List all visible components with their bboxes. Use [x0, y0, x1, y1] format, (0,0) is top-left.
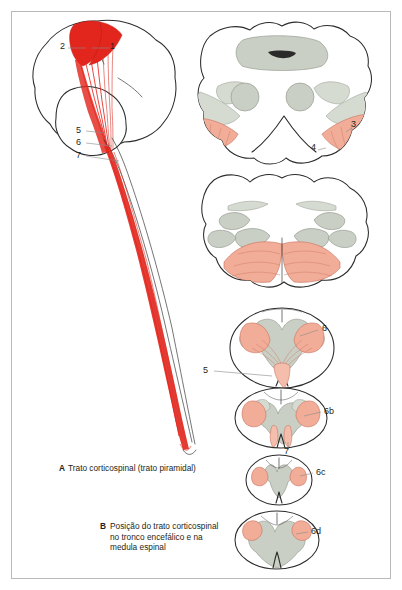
caption-b-text: Posição do trato corticospinal no tronco… — [110, 521, 218, 553]
corticospinal-tract-ribbon — [104, 146, 189, 450]
label-number-6-lumbar: 6d — [311, 527, 321, 536]
caption-b-line-2: no tronco encefálico e na — [110, 532, 218, 543]
figure-page: .ol { fill:none; stroke:#2b2b2b; stroke-… — [0, 0, 402, 590]
spinal-cord-tip — [183, 450, 196, 455]
label-number-7-brain: 7 — [76, 151, 81, 160]
label-number-2: 2 — [60, 42, 65, 51]
label-number-3-midbrain: 3 — [351, 120, 356, 129]
lateral-corticospinal-lumbar-left — [243, 521, 262, 541]
caption-a-text: Trato corticospinal (trato piramidal) — [68, 463, 196, 474]
red-nucleus-right — [286, 83, 314, 111]
caption-a-letter: A — [59, 463, 65, 473]
section-cervical-spinal-cord — [235, 388, 327, 450]
section-medulla-oblongata — [214, 308, 334, 388]
label-number-7-cervical: 7 — [284, 447, 289, 456]
label-number-6-thoracic: 6c — [316, 468, 326, 477]
lateral-corticospinal-thoracic-left — [252, 467, 268, 486]
label-number-4-midbrain: 4 — [311, 143, 316, 152]
lateral-corticospinal-lumbar-right — [292, 521, 311, 541]
anatomical-illustration: .ol { fill:none; stroke:#2b2b2b; stroke-… — [0, 0, 402, 590]
label-number-1: 1 — [110, 42, 115, 51]
anterior-corticospinal-cervical-left — [270, 425, 278, 447]
caption-b-letter: B — [100, 521, 106, 531]
panel-a-sagittal-view — [33, 20, 196, 454]
label-number-5-medulla: 5 — [203, 366, 208, 375]
label-number-6-brain: 6 — [76, 138, 81, 147]
section-midbrain — [192, 22, 375, 164]
label-number-6-cervical: 6b — [324, 407, 334, 416]
caption-b-line-3: medula espinal — [110, 542, 218, 553]
corticospinal-tract-fibre-1 — [107, 150, 179, 436]
red-nucleus-left — [231, 83, 259, 111]
label-number-5-brain: 5 — [76, 126, 81, 135]
section-pons — [202, 175, 369, 288]
section-thoracic-spinal-cord — [246, 455, 313, 505]
label-number-6-medulla: 6 — [322, 324, 327, 333]
lateral-corticospinal-thoracic-right — [290, 467, 306, 486]
caption-b-line-1: Posição do trato corticospinal — [110, 521, 218, 532]
section-lumbar-spinal-cord — [235, 511, 319, 569]
